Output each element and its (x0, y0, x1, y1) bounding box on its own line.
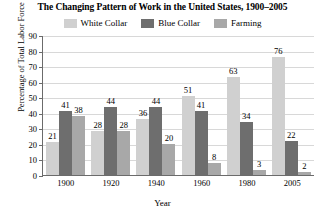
bar-slot: 22 (285, 36, 298, 175)
legend-item-white-collar: White Collar (64, 18, 128, 28)
bar-slot: 3 (253, 36, 266, 175)
bar-value-label: 41 (61, 100, 70, 110)
bar-value-label: 36 (139, 108, 148, 118)
y-axis-tick-label: 80 (29, 47, 38, 57)
bar-value-label: 3 (257, 159, 261, 169)
chart-title: The Changing Pattern of Work in the Unit… (0, 2, 325, 12)
bar[interactable] (136, 119, 149, 175)
bar-value-label: 44 (152, 96, 161, 106)
bar[interactable] (91, 131, 104, 175)
y-axis-tick-label: 40 (29, 109, 38, 119)
x-axis-tick-label: 1900 (57, 178, 74, 188)
bar[interactable] (117, 131, 130, 175)
bar-value-label: 44 (106, 96, 115, 106)
chart-container: The Changing Pattern of Work in the Unit… (0, 0, 325, 216)
y-axis-tick-label: 0 (33, 171, 37, 181)
y-axis-tick-mark (39, 176, 43, 177)
x-axis-tick-label: 1920 (103, 178, 120, 188)
x-axis-tick-label: 1940 (148, 178, 165, 188)
bar-slot: 38 (72, 36, 85, 175)
bar[interactable] (272, 57, 285, 175)
bar-slot: 36 (136, 36, 149, 175)
bar[interactable] (72, 116, 85, 175)
x-axis-title: Year (0, 198, 325, 208)
y-axis-tick-label: 50 (29, 93, 38, 103)
bar-group: 214138 (46, 36, 85, 175)
bar[interactable] (298, 172, 311, 175)
bar[interactable] (149, 107, 162, 175)
y-axis-tick-label: 20 (29, 140, 38, 150)
y-axis-tick-label: 10 (29, 155, 38, 165)
bar-slot: 63 (227, 36, 240, 175)
bar-value-label: 76 (274, 46, 283, 56)
bar[interactable] (195, 111, 208, 175)
bar-value-label: 63 (229, 66, 238, 76)
bar-slot: 41 (59, 36, 72, 175)
bar-value-label: 38 (74, 105, 83, 115)
bar-group: 51418 (182, 36, 221, 175)
bar[interactable] (46, 142, 59, 175)
legend-swatch-white-collar (64, 19, 77, 28)
bar-group: 364420 (136, 36, 175, 175)
bar-slot: 21 (46, 36, 59, 175)
bar-value-label: 2 (302, 161, 306, 171)
bar-value-label: 8 (212, 152, 216, 162)
y-axis-tick-label: 60 (29, 78, 38, 88)
bar-slot: 51 (182, 36, 195, 175)
bar[interactable] (240, 122, 253, 175)
bar-value-label: 22 (287, 130, 296, 140)
bar-value-label: 51 (184, 85, 193, 95)
bar-slot: 44 (104, 36, 117, 175)
bar-value-label: 21 (48, 131, 57, 141)
legend-swatch-blue-collar (141, 19, 154, 28)
chart-legend: White Collar Blue Collar Farming (0, 18, 325, 28)
bar[interactable] (227, 77, 240, 175)
bar-slot: 28 (91, 36, 104, 175)
bar-group: 76222 (272, 36, 311, 175)
bar[interactable] (59, 111, 72, 175)
bar-slot: 41 (195, 36, 208, 175)
bar-value-label: 28 (93, 120, 102, 130)
bar-slot: 20 (162, 36, 175, 175)
bar-slot: 8 (208, 36, 221, 175)
legend-item-blue-collar: Blue Collar (141, 18, 200, 28)
bar-value-label: 20 (165, 133, 174, 143)
y-axis-tick-label: 30 (29, 124, 38, 134)
y-axis-tick-label: 70 (29, 62, 38, 72)
y-axis-tick-label: 90 (29, 31, 38, 41)
x-axis-tick-label: 1960 (193, 178, 210, 188)
bar-group: 63343 (227, 36, 266, 175)
bar-value-label: 41 (197, 100, 206, 110)
bar-groups: 214138284428364420514186334376222 (43, 36, 314, 175)
plot-area: 0102030405060708090 21413828442836442051… (42, 36, 314, 176)
bar-slot: 2 (298, 36, 311, 175)
bar-slot: 34 (240, 36, 253, 175)
bar-slot: 76 (272, 36, 285, 175)
x-axis-tick-label: 1980 (239, 178, 256, 188)
bar[interactable] (162, 144, 175, 175)
legend-swatch-farming (214, 19, 227, 28)
bar-value-label: 28 (119, 120, 128, 130)
bar-value-label: 34 (242, 111, 251, 121)
bar[interactable] (253, 170, 266, 175)
legend-label-blue-collar: Blue Collar (158, 18, 200, 28)
legend-label-white-collar: White Collar (81, 18, 128, 28)
bar[interactable] (208, 163, 221, 175)
y-axis-title: Percentage of Total Labor Force (16, 0, 26, 122)
bar[interactable] (104, 107, 117, 175)
bar-slot: 44 (149, 36, 162, 175)
x-axis-tick-label: 2005 (284, 178, 301, 188)
legend-item-farming: Farming (214, 18, 262, 28)
bar[interactable] (182, 96, 195, 175)
bar-group: 284428 (91, 36, 130, 175)
bar[interactable] (285, 141, 298, 175)
legend-label-farming: Farming (231, 18, 262, 28)
bar-slot: 28 (117, 36, 130, 175)
